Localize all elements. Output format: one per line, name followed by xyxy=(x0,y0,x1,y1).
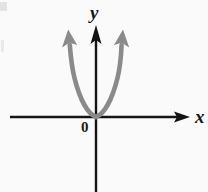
parabola-left-branch xyxy=(70,45,96,117)
parabola-right-branch xyxy=(96,45,122,117)
coordinate-plane-svg xyxy=(0,0,208,192)
parabola-figure: y x 0 xyxy=(0,0,208,192)
x-axis-label: x xyxy=(195,107,205,126)
origin-label: 0 xyxy=(81,120,89,135)
y-axis-label: y xyxy=(90,3,98,22)
